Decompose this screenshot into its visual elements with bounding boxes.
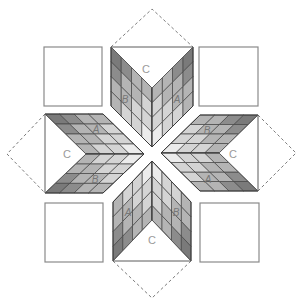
piece-label-B: B	[204, 125, 211, 136]
piece-label-C: C	[229, 148, 237, 160]
piece-label-A: A	[92, 124, 100, 135]
piece-label-C: C	[142, 63, 150, 75]
corner-square-bottom-left	[45, 203, 103, 262]
corner-square-bottom-right	[200, 203, 259, 262]
dashed-trim-line	[258, 115, 296, 191]
arm-bottom: ABC	[113, 161, 191, 298]
piece-label-A: A	[124, 207, 132, 218]
dashed-trim-line	[113, 261, 191, 298]
quilt-star-diagram: CBAABCACBBCA	[0, 0, 304, 305]
corner-square-top-right	[199, 47, 258, 106]
dashed-trim-line	[7, 114, 45, 193]
corner-square-top-left	[44, 47, 102, 106]
arm-right: BCA	[161, 115, 296, 191]
dashed-trim-line	[111, 9, 193, 47]
piece-label-C: C	[148, 234, 156, 246]
arm-top: CBA	[111, 9, 193, 147]
arm-left: ACB	[7, 114, 144, 193]
piece-label-C: C	[63, 148, 71, 160]
piece-label-A: A	[204, 174, 212, 185]
piece-label-B: B	[173, 207, 180, 218]
piece-label-B: B	[92, 174, 99, 185]
piece-label-B: B	[122, 94, 129, 105]
piece-label-A: A	[173, 94, 181, 105]
